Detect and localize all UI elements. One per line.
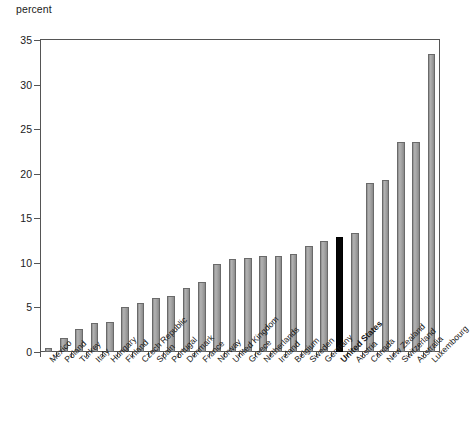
x-axis-label-slot: Austria — [347, 356, 362, 422]
x-axis-label-slot: Italy — [87, 356, 102, 422]
bar-slot — [133, 40, 148, 352]
bar-slot — [148, 40, 163, 352]
x-axis-label-slot: Czech Republic — [133, 356, 148, 422]
bar-slot — [225, 40, 240, 352]
x-axis-label-slot: Poland — [56, 356, 71, 422]
bar — [106, 322, 114, 352]
x-axis-label-slot: United States — [332, 356, 347, 422]
y-axis-tick-label: 20 — [4, 168, 32, 180]
y-axis-tick — [34, 218, 40, 219]
x-axis-label-slot: Greece — [240, 356, 255, 422]
bar-slot — [179, 40, 194, 352]
x-axis-label-slot: Belgium — [286, 356, 301, 422]
bar-slot — [271, 40, 286, 352]
bar-slot — [255, 40, 270, 352]
y-axis-tick-label: 35 — [4, 34, 32, 46]
y-axis-tick — [34, 352, 40, 353]
bar-slot — [317, 40, 332, 352]
x-axis-label-slot: Finland — [118, 356, 133, 422]
x-axis-label-slot: Netherlands — [255, 356, 270, 422]
bar-slot — [118, 40, 133, 352]
y-axis-tick-label: 0 — [4, 346, 32, 358]
bar-slot — [378, 40, 393, 352]
bar-slot — [240, 40, 255, 352]
bar-slot — [393, 40, 408, 352]
y-axis-tick — [34, 40, 40, 41]
x-axis-label-slot: Switzerland — [393, 356, 408, 422]
x-axis-label-slot: New Zealand — [378, 356, 393, 422]
y-axis-tick — [34, 129, 40, 130]
bar-slot — [347, 40, 362, 352]
bar-slot — [164, 40, 179, 352]
x-axis-label-slot: United Kingdom — [225, 356, 240, 422]
y-axis-tick — [34, 174, 40, 175]
x-axis-label-slot: Spain — [148, 356, 163, 422]
bar-slot — [56, 40, 71, 352]
bar-slot — [87, 40, 102, 352]
bar-slot — [209, 40, 224, 352]
x-axis-label-slot: Sweden — [301, 356, 316, 422]
y-axis-tick-label: 15 — [4, 212, 32, 224]
bar — [320, 241, 328, 352]
x-axis-label-slot: Ireland — [271, 356, 286, 422]
bar-slot — [409, 40, 424, 352]
x-axis-label-slot: Hungary — [102, 356, 117, 422]
y-axis-labels: 05101520253035 — [0, 0, 32, 422]
bar-slot — [102, 40, 117, 352]
bar-slot — [286, 40, 301, 352]
bar — [336, 237, 344, 352]
y-axis-tick — [34, 307, 40, 308]
bar-slot — [363, 40, 378, 352]
x-axis-label-slot: France — [194, 356, 209, 422]
x-axis-label-slot: Portugal — [164, 356, 179, 422]
y-axis-tick-label: 30 — [4, 79, 32, 91]
y-axis-tick — [34, 263, 40, 264]
y-axis-tick-label: 10 — [4, 257, 32, 269]
x-axis-label-slot: Germany — [317, 356, 332, 422]
x-axis-labels: MexicoPolandTurkeyItalyHungaryFinlandCze… — [41, 356, 439, 422]
x-axis-label-slot: Mexico — [41, 356, 56, 422]
x-axis-label-slot: Norway — [209, 356, 224, 422]
bars-container — [41, 40, 439, 352]
x-axis-label-slot: Turkey — [72, 356, 87, 422]
bar-slot — [424, 40, 439, 352]
bar-slot — [332, 40, 347, 352]
bar-slot — [72, 40, 87, 352]
bar-slot — [301, 40, 316, 352]
bar-slot — [41, 40, 56, 352]
bar-slot — [194, 40, 209, 352]
bar — [351, 233, 359, 352]
x-axis-label-slot: Denmark — [179, 356, 194, 422]
bar — [428, 54, 436, 352]
y-axis-tick-label: 25 — [4, 123, 32, 135]
x-axis-label-slot: Luxembourg — [424, 356, 439, 422]
x-axis-label-slot: Australia — [409, 356, 424, 422]
x-axis-label-slot: Canada — [363, 356, 378, 422]
y-axis-tick — [34, 85, 40, 86]
bar — [397, 142, 405, 352]
y-axis-tick-label: 5 — [4, 301, 32, 313]
bar — [412, 142, 420, 352]
